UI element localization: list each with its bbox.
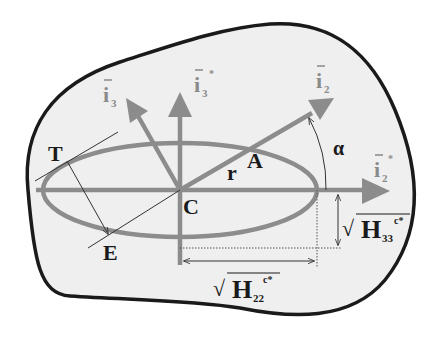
diagram-canvas: i 3 i 3 * i 2 i 2 * T E C A r α (0, 0, 442, 337)
body-outline (27, 24, 414, 315)
svg-text:H: H (361, 215, 381, 244)
svg-text:c*: c* (263, 274, 272, 285)
svg-text:c*: c* (394, 215, 403, 226)
label-r: r (227, 160, 237, 185)
label-T: T (48, 141, 63, 166)
svg-text:√: √ (342, 216, 355, 241)
svg-text:H: H (232, 275, 252, 304)
svg-text:*: * (209, 68, 214, 79)
label-A: A (247, 148, 263, 173)
svg-text:3: 3 (111, 97, 117, 109)
svg-text:i: i (103, 82, 109, 107)
svg-text:√: √ (213, 276, 226, 301)
svg-text:i: i (316, 68, 322, 93)
label-C: C (183, 194, 199, 219)
svg-text:*: * (388, 153, 393, 164)
svg-text:i: i (374, 157, 380, 182)
svg-text:33: 33 (382, 232, 394, 244)
svg-text:i: i (194, 72, 200, 97)
svg-text:2: 2 (382, 172, 388, 184)
ellipse-diagram: i 3 i 3 * i 2 i 2 * T E C A r α (0, 0, 442, 337)
svg-text:3: 3 (202, 87, 208, 99)
label-alpha: α (333, 137, 344, 159)
label-E: E (103, 240, 118, 265)
svg-text:2: 2 (324, 83, 330, 95)
svg-text:22: 22 (253, 292, 265, 304)
